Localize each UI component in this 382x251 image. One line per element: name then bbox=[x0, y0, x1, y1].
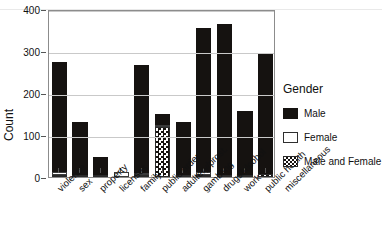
chart-figure: Count 0100200300400 violencesexpropertyl… bbox=[0, 0, 382, 251]
legend: Gender Male Female Male and Female bbox=[283, 82, 382, 180]
legend-swatch-male-icon bbox=[283, 108, 298, 119]
legend-item-male-and-female[interactable]: Male and Female bbox=[283, 156, 382, 167]
x-tick-mark bbox=[265, 168, 266, 173]
x-tick-mark bbox=[100, 168, 101, 173]
x-tick-mark bbox=[162, 168, 163, 173]
x-tick-label: sex bbox=[76, 176, 94, 194]
legend-label-male-and-female: Male and Female bbox=[304, 156, 381, 167]
legend-label-female: Female bbox=[304, 132, 337, 143]
legend-swatch-male-and-female-icon bbox=[283, 156, 298, 167]
legend-item-female[interactable]: Female bbox=[283, 132, 382, 143]
x-tick-mark bbox=[58, 168, 59, 173]
legend-item-male[interactable]: Male bbox=[283, 108, 382, 119]
legend-label-male: Male bbox=[304, 108, 326, 119]
legend-title: Gender bbox=[283, 82, 382, 96]
legend-swatch-female-icon bbox=[283, 132, 298, 143]
